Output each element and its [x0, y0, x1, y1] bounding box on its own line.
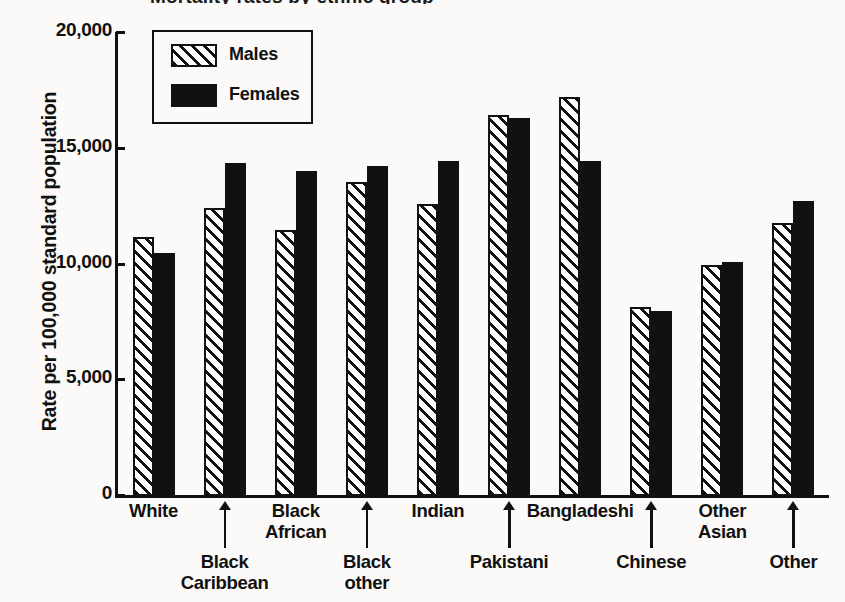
y-axis-tick-label: 10,000	[16, 251, 112, 273]
bar-males	[133, 237, 154, 496]
x-axis-label-chinese: Chinese	[576, 551, 726, 572]
bar-females	[651, 311, 672, 496]
x-axis-label-black-african: BlackAfrican	[221, 500, 371, 542]
y-axis-tick-mark	[116, 147, 125, 150]
y-axis-tick-label: 20,000	[16, 19, 112, 41]
label-leader-line	[792, 510, 795, 548]
x-axis-label-line: Bangladeshi	[505, 500, 655, 521]
y-axis-tick-label: 15,000	[16, 135, 112, 157]
bar-males	[417, 204, 438, 496]
bar-males	[488, 115, 509, 496]
x-axis-label-line: Indian	[363, 500, 513, 521]
legend-swatch-males	[171, 44, 217, 67]
bar-males	[559, 97, 580, 496]
x-axis-label-line: Black	[292, 551, 442, 572]
y-axis-tick-mark	[116, 263, 125, 266]
chart-figure: Mortality rates by ethnic group Rate per…	[0, 0, 845, 602]
x-axis-label-line: Other	[647, 500, 797, 521]
x-axis-label-black-other: Blackother	[292, 551, 442, 593]
chart-legend: Males Females	[152, 30, 313, 124]
bar-males	[275, 230, 296, 496]
bar-males	[346, 182, 367, 496]
y-axis-tick-mark	[116, 494, 125, 497]
x-axis-label-other: Other	[718, 551, 845, 572]
bar-females	[722, 262, 743, 496]
y-axis-tick-label: 5,000	[16, 366, 112, 388]
x-axis-label-bangladeshi: Bangladeshi	[505, 500, 655, 521]
bar-females	[509, 118, 530, 497]
legend-label-females: Females	[229, 84, 300, 105]
x-axis-label-line: Caribbean	[150, 572, 300, 593]
bar-females	[438, 161, 459, 496]
bar-females	[793, 201, 814, 496]
x-axis-label-white: White	[79, 500, 229, 521]
x-axis-label-line: Asian	[647, 521, 797, 542]
x-axis-label-line: other	[292, 572, 442, 593]
x-axis-label-line: Black	[150, 551, 300, 572]
bar-males	[772, 223, 793, 496]
x-axis-label-line: Other	[718, 551, 845, 572]
label-leader-arrow-icon	[787, 501, 799, 510]
bar-males	[204, 208, 225, 496]
legend-label-males: Males	[229, 44, 278, 65]
legend-swatch-females	[171, 84, 217, 107]
bar-males	[630, 307, 651, 496]
bar-females	[225, 163, 246, 496]
x-axis-label-other-asian: OtherAsian	[647, 500, 797, 542]
x-axis-label-black-caribbean: BlackCaribbean	[150, 551, 300, 593]
bar-females	[580, 161, 601, 496]
x-axis-label-line: Chinese	[576, 551, 726, 572]
bar-males	[701, 265, 722, 497]
y-axis-ticks: 20,00015,00010,0005,0000	[0, 0, 112, 520]
x-axis-label-indian: Indian	[363, 500, 513, 521]
x-axis-label-line: Pakistani	[434, 551, 584, 572]
bar-females	[296, 171, 317, 496]
y-axis-tick-mark	[116, 31, 125, 34]
bar-females	[367, 166, 388, 496]
x-axis-label-pakistani: Pakistani	[434, 551, 584, 572]
x-axis-label-line: African	[221, 521, 371, 542]
y-axis-tick-mark	[116, 378, 125, 381]
chart-title: Mortality rates by ethnic group	[150, 0, 670, 4]
bar-females	[154, 253, 175, 496]
x-axis-label-line: Black	[221, 500, 371, 521]
x-axis-label-line: White	[79, 500, 229, 521]
